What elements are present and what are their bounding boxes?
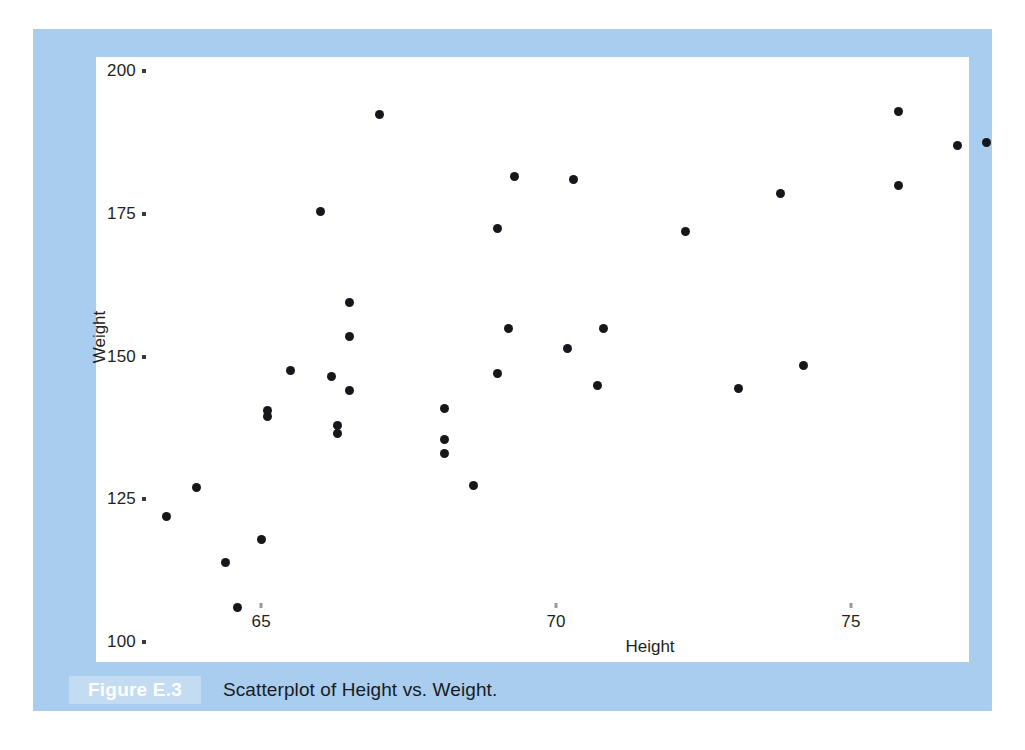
figure-caption-bar: Figure E.3 Scatterplot of Height vs. Wei… — [33, 674, 992, 711]
data-point — [953, 141, 962, 150]
scatter-plot: Weight Height 100125150175200657075 — [96, 57, 969, 662]
x-axis-tick-mark — [260, 603, 263, 608]
x-axis-tick-mark — [555, 603, 558, 608]
data-point — [286, 366, 295, 375]
data-point — [327, 372, 336, 381]
data-point — [569, 175, 578, 184]
y-axis-tick-mark — [142, 497, 146, 501]
data-point — [440, 435, 449, 444]
data-point — [345, 298, 354, 307]
x-axis-label: Height — [590, 637, 710, 657]
data-point — [469, 481, 478, 490]
data-point — [504, 324, 513, 333]
data-point — [333, 429, 342, 438]
data-point — [493, 369, 502, 378]
data-point — [257, 535, 266, 544]
data-point — [982, 138, 991, 147]
data-point — [440, 449, 449, 458]
x-axis-tick-label: 75 — [826, 612, 876, 632]
data-point — [894, 181, 903, 190]
data-point — [799, 361, 808, 370]
y-axis-tick-label: 150 — [90, 347, 136, 367]
x-axis-tick-label: 65 — [236, 612, 286, 632]
y-axis-tick-label: 100 — [90, 632, 136, 652]
figure-card: Weight Height 100125150175200657075 Figu… — [33, 29, 992, 711]
y-axis-tick-label: 200 — [90, 61, 136, 81]
y-axis-tick-mark — [142, 640, 146, 644]
data-point — [263, 406, 272, 415]
figure-caption-text: Scatterplot of Height vs. Weight. — [223, 676, 497, 704]
figure-number-badge: Figure E.3 — [69, 676, 201, 704]
data-point — [734, 384, 743, 393]
data-point — [493, 224, 502, 233]
data-point — [681, 227, 690, 236]
y-axis-tick-label: 125 — [90, 489, 136, 509]
x-axis-tick-mark — [850, 603, 853, 608]
data-point — [233, 603, 242, 612]
y-axis-tick-mark — [142, 355, 146, 359]
data-point — [375, 110, 384, 119]
y-axis-tick-mark — [142, 212, 146, 216]
x-axis-tick-label: 70 — [531, 612, 581, 632]
plot-panel: Weight Height 100125150175200657075 — [96, 57, 969, 662]
data-point — [345, 386, 354, 395]
data-point — [192, 483, 201, 492]
data-point — [316, 207, 325, 216]
data-point — [894, 107, 903, 116]
data-point — [563, 344, 572, 353]
data-point — [510, 172, 519, 181]
data-point — [221, 558, 230, 567]
data-point — [776, 189, 785, 198]
data-point — [593, 381, 602, 390]
data-point — [162, 512, 171, 521]
y-axis-tick-mark — [142, 69, 146, 73]
data-point — [599, 324, 608, 333]
data-point — [345, 332, 354, 341]
y-axis-tick-label: 175 — [90, 204, 136, 224]
data-point — [440, 404, 449, 413]
